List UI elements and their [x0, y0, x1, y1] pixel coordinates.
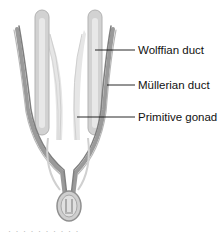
left-primitive-gonad	[35, 10, 49, 135]
label-primitive-gonad: Primitive gonad	[138, 111, 217, 123]
figure-caption-cropped: · · · · · · · · · ·	[8, 226, 79, 236]
label-wolffian-duct: Wolffian duct	[138, 44, 204, 56]
urogenital-sinus	[57, 191, 81, 221]
label-mullerian-duct: Müllerian duct	[138, 79, 210, 91]
right-mesonephros	[73, 30, 86, 140]
